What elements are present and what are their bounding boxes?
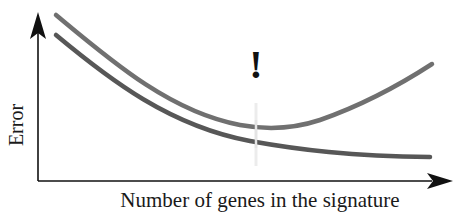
x-axis-label: Number of genes in the signature <box>120 188 399 212</box>
error-vs-genes-chart: Error Number of genes in the signature ! <box>0 0 461 215</box>
optimum-exclamation-annotation: ! <box>249 42 262 87</box>
upper-error-curve <box>56 15 432 128</box>
y-axis-label: Error <box>5 104 27 147</box>
